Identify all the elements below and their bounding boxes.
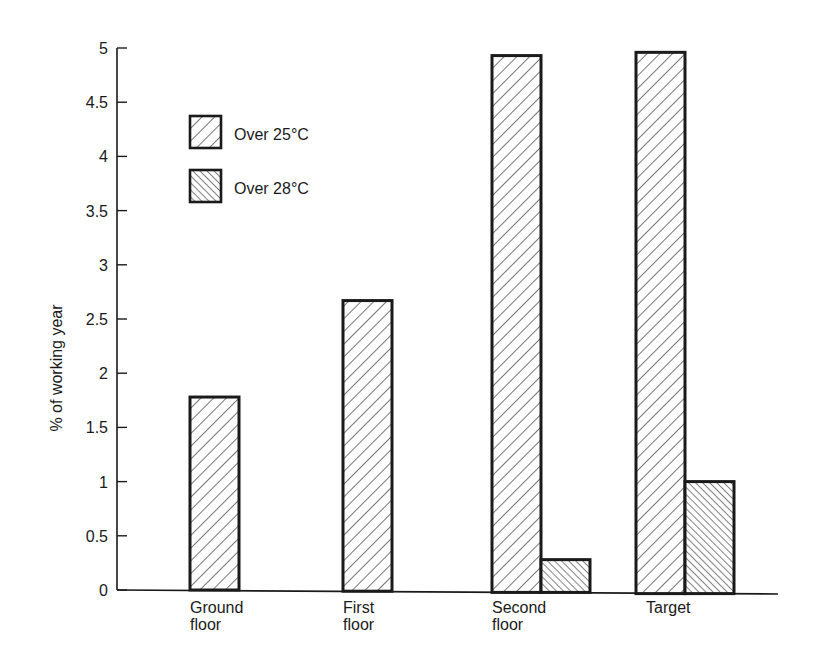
y-tick-label: 4.5 bbox=[86, 94, 108, 111]
category-label: Groundfloor bbox=[190, 599, 243, 633]
y-tick-label: 3.5 bbox=[86, 203, 108, 220]
y-axis: 00.511.522.533.544.55 bbox=[86, 40, 127, 599]
legend-swatch-over-28 bbox=[190, 170, 221, 202]
y-tick-label: 0 bbox=[99, 582, 108, 599]
y-tick-label: 5 bbox=[99, 40, 108, 57]
bar-over-25-second-floor bbox=[492, 56, 541, 593]
legend-label: Over 25°C bbox=[234, 126, 309, 143]
bar-over-25-target bbox=[636, 52, 685, 593]
y-tick-label: 2 bbox=[99, 365, 108, 382]
bar-over-25-first-floor bbox=[343, 301, 392, 592]
y-tick-label: 3 bbox=[99, 257, 108, 274]
bar-over-28-target bbox=[685, 482, 734, 594]
y-tick-label: 2.5 bbox=[86, 311, 108, 328]
bar-over-28-second-floor bbox=[541, 560, 590, 593]
category-label: Secondfloor bbox=[492, 599, 546, 633]
bar-over-25-ground-floor bbox=[190, 397, 239, 590]
legend-label: Over 28°C bbox=[234, 180, 309, 197]
y-tick-label: 0.5 bbox=[86, 528, 108, 545]
legend-swatch-over-25 bbox=[190, 116, 221, 148]
y-tick-label: 4 bbox=[99, 148, 108, 165]
category-labels: GroundfloorFirstfloorSecondfloorTarget bbox=[190, 599, 691, 633]
legend: Over 25°COver 28°C bbox=[190, 116, 309, 202]
y-tick-label: 1 bbox=[99, 474, 108, 491]
category-label: Firstfloor bbox=[343, 599, 375, 633]
category-label: Target bbox=[646, 599, 691, 616]
y-tick-label: 1.5 bbox=[86, 419, 108, 436]
bar-chart: 00.511.522.533.544.55 GroundfloorFirstfl… bbox=[0, 0, 815, 666]
y-axis-title: % of working year bbox=[48, 304, 65, 432]
